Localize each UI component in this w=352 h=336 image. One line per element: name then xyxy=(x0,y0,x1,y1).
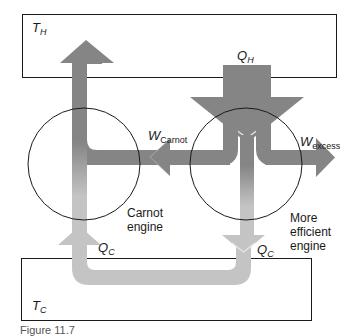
qh-label: QH xyxy=(237,48,254,65)
cold-reservoir-box xyxy=(22,259,312,321)
carnot-qh-arrowhead xyxy=(60,40,114,63)
w-excess-label: Wexcess xyxy=(300,134,340,151)
qh-shaft xyxy=(223,65,271,98)
head-fill xyxy=(72,60,102,64)
hot-reservoir-label: TH xyxy=(32,20,46,37)
cold-reservoir-label: TC xyxy=(32,298,46,315)
carnot-shaft xyxy=(72,60,87,242)
w-carnot-label: WCarnot xyxy=(148,128,187,145)
carnot-engine-label: Carnot engine xyxy=(127,206,163,234)
carnot-qc-label: QC xyxy=(98,240,115,257)
efficient-engine-label: More efficient engine xyxy=(290,211,331,253)
hot-reservoir-box xyxy=(23,15,337,78)
w-excess-band xyxy=(271,150,316,165)
efficient-left-branch xyxy=(223,120,238,165)
figure-caption: Figure 11.7 xyxy=(20,324,75,336)
efficient-qc-shaft xyxy=(240,135,254,237)
efficient-qc-label: QC xyxy=(257,242,274,259)
